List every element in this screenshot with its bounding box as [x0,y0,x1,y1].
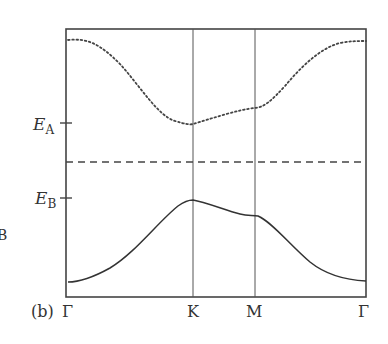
x-label-m: M [246,302,262,321]
plot-frame [66,29,366,297]
stray-label-fragment: B [0,227,7,243]
upper-band-curve [68,40,366,125]
panel-label: (b) [31,302,54,321]
eb-label: EB [34,188,56,211]
ea-label: EA [32,114,54,137]
band-structure-diagram: EA EB B (b) Γ K M Γ [0,0,388,344]
x-label-gamma-start: Γ [62,302,73,321]
x-label-gamma-end: Γ [358,302,369,321]
lower-band-curve [68,200,366,282]
x-label-k: K [187,302,200,321]
